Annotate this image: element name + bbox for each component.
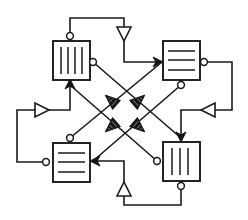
port-bottom-left-left[interactable]: [43, 159, 50, 166]
center-arrow-group: [101, 91, 148, 137]
open-arrow-top-icon[interactable]: [117, 27, 131, 41]
node-top-left[interactable]: [53, 41, 90, 80]
open-arrow-right-icon[interactable]: [201, 103, 215, 117]
port-top-right-right[interactable]: [201, 59, 208, 66]
diagram-canvas: [0, 0, 248, 220]
diagram-svg: [0, 0, 248, 220]
center-arrow-lower-right[interactable]: [130, 118, 149, 137]
node-bottom-left[interactable]: [53, 143, 90, 182]
open-arrow-left-icon[interactable]: [35, 103, 49, 117]
node-top-right[interactable]: [163, 41, 200, 80]
port-top-right-bottom[interactable]: [178, 82, 185, 89]
center-arrow-lower-left[interactable]: [101, 118, 120, 137]
port-bottom-left-top[interactable]: [67, 135, 74, 142]
node-bottom-right[interactable]: [163, 142, 200, 181]
top-left-block-body[interactable]: [53, 41, 90, 80]
open-arrow-bottom-icon[interactable]: [117, 182, 131, 196]
bottom-right-block-body[interactable]: [163, 142, 200, 181]
port-top-left-right[interactable]: [90, 59, 97, 66]
port-bottom-right-left[interactable]: [154, 158, 161, 165]
port-bottom-right-bottom[interactable]: [178, 183, 185, 190]
center-arrow-upper-left[interactable]: [101, 91, 120, 110]
port-top-left-top[interactable]: [67, 33, 74, 40]
